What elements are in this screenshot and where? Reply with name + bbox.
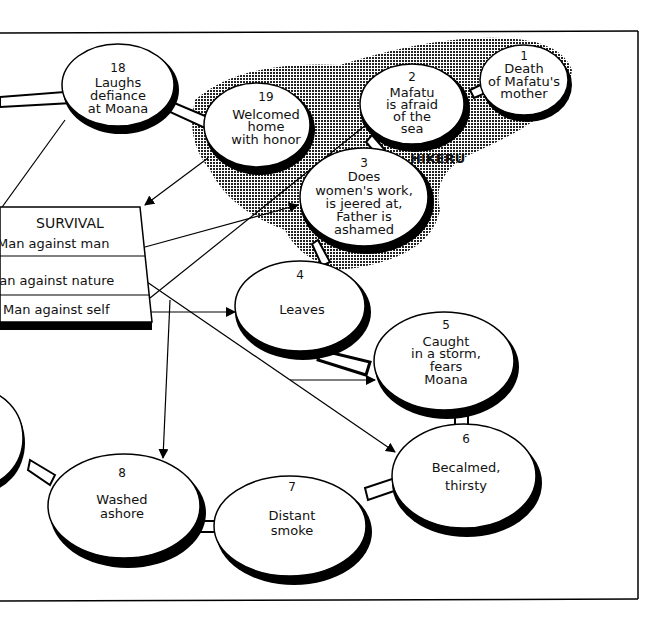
frame-bottom (0, 599, 638, 601)
svg-text:with honor: with honor (231, 132, 301, 147)
svg-text:Does: Does (348, 169, 381, 184)
svg-text:2: 2 (408, 70, 416, 84)
node-7: 7 Distant smoke (214, 476, 372, 585)
svg-text:smoke: smoke (271, 523, 313, 538)
frame-top (0, 31, 638, 33)
svg-text:8: 8 (118, 466, 126, 480)
hikeru-label: HIKERU (410, 151, 465, 166)
svg-text:18: 18 (110, 61, 125, 75)
node-partial-left (0, 390, 25, 493)
svg-text:Washed: Washed (96, 492, 147, 507)
survival-row-nature: Man against nature (0, 273, 114, 288)
survival-title: SURVIVAL (36, 215, 104, 231)
svg-text:6: 6 (462, 432, 470, 446)
svg-text:sea: sea (401, 121, 424, 136)
node-4: 4 Leaves (235, 261, 371, 360)
svg-text:thirsty: thirsty (445, 478, 487, 493)
node-8: 8 Washed ashore (48, 454, 206, 568)
survival-row-man: Man against man (0, 236, 109, 251)
svg-text:Moana: Moana (424, 372, 467, 387)
node-18: 18 Laughs defiance at Moana (62, 44, 179, 134)
svg-text:5: 5 (442, 318, 450, 332)
plot-diagram: SURVIVAL Man against man Man against nat… (0, 0, 669, 628)
svg-text:at Moana: at Moana (88, 101, 149, 116)
survival-row-self: Man against self (3, 302, 110, 317)
node-5: 5 Caught in a storm, fears Moana (374, 312, 519, 419)
svg-text:ashamed: ashamed (334, 222, 394, 237)
svg-text:mother: mother (500, 86, 548, 101)
survival-box: SURVIVAL Man against man Man against nat… (0, 207, 152, 330)
svg-text:4: 4 (296, 268, 304, 282)
svg-text:Distant: Distant (269, 508, 316, 523)
svg-text:7: 7 (288, 480, 296, 494)
svg-text:ashore: ashore (100, 506, 144, 521)
svg-text:Becalmed,: Becalmed, (432, 460, 501, 475)
svg-text:3: 3 (360, 156, 368, 170)
svg-text:19: 19 (258, 90, 273, 104)
svg-text:Leaves: Leaves (279, 302, 325, 317)
node-6: 6 Becalmed, thirsty (392, 424, 542, 537)
